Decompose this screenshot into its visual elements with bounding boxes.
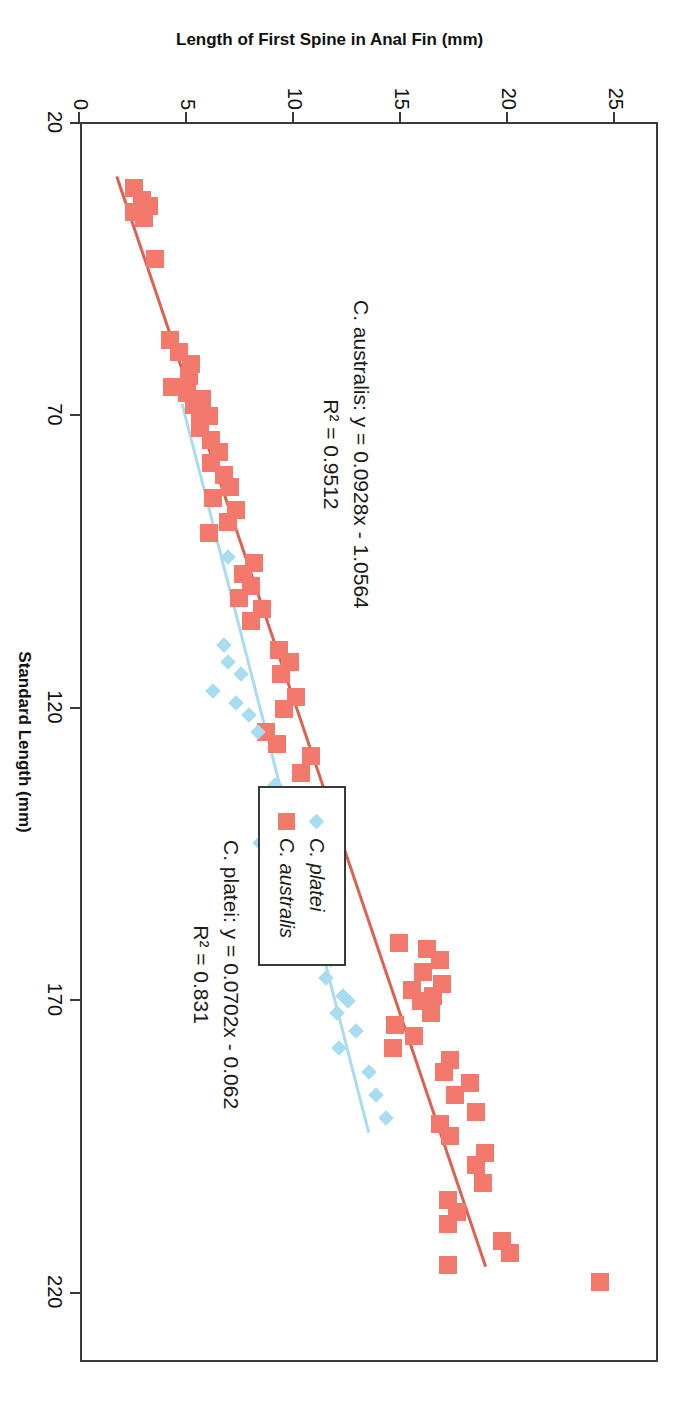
x-axis-tick-label: 120 <box>43 690 66 723</box>
data-point-c-australis <box>384 1039 402 1057</box>
annotation-c-platei-equation: C. platei: y = 0.0702x - 0.062 <box>220 840 243 1109</box>
y-axis-tick-label: 10 <box>283 88 306 110</box>
annotation-c-platei-r2: R² = 0.831 <box>185 840 215 1109</box>
data-point-c-australis <box>302 747 320 765</box>
data-point-c-platei <box>220 549 236 565</box>
data-point-c-australis <box>275 700 293 718</box>
x-axis-tick-label: 220 <box>43 1275 66 1308</box>
annotation-c-platei: C. platei: y = 0.0702x - 0.062 R² = 0.83… <box>185 840 246 1109</box>
annotation-c-australis-r2: R² = 0.9512 <box>315 300 345 609</box>
y-axis-tick-label: 15 <box>390 88 413 110</box>
data-point-c-australis <box>467 1103 485 1121</box>
chart-figure: Callanthias 20701201702200510152025 Stan… <box>0 0 676 1412</box>
data-point-c-australis <box>390 934 408 952</box>
data-point-c-australis <box>135 209 153 227</box>
data-point-c-australis <box>501 1244 519 1262</box>
data-point-c-australis <box>422 1004 440 1022</box>
data-point-c-australis <box>268 735 286 753</box>
rotated-figure-wrapper: Callanthias 20701201702200510152025 Stan… <box>0 0 676 1412</box>
x-axis-tick-mark <box>70 999 80 1001</box>
legend-swatch-wrapper <box>312 804 323 838</box>
data-point-c-platei <box>233 666 249 682</box>
y-axis-tick-mark <box>613 112 615 122</box>
data-point-c-platei <box>329 1005 345 1021</box>
legend-swatch-wrapper <box>279 804 296 838</box>
data-point-c-australis <box>431 951 449 969</box>
y-axis-label: Length of First Spine in Anal Fin (mm) <box>176 30 483 50</box>
data-point-c-platei <box>216 637 232 653</box>
data-point-c-australis <box>414 963 432 981</box>
y-axis-tick-label: 0 <box>69 99 92 110</box>
data-point-c-australis <box>219 513 237 531</box>
data-point-c-australis <box>386 1016 404 1034</box>
data-point-c-australis <box>242 612 260 630</box>
data-point-c-platei <box>205 684 221 700</box>
data-point-c-australis <box>446 1086 464 1104</box>
data-point-c-australis <box>442 1127 460 1145</box>
data-point-c-australis <box>591 1273 609 1291</box>
x-axis-tick-mark <box>70 122 80 124</box>
data-point-c-australis <box>405 1027 423 1045</box>
data-point-c-australis <box>272 665 290 683</box>
data-point-c-platei <box>331 1040 347 1056</box>
x-axis-tick-mark <box>70 707 80 709</box>
y-axis-tick-mark <box>292 112 294 122</box>
y-axis-tick-mark <box>399 112 401 122</box>
chart-legend: C. plateiC. australis <box>258 786 346 966</box>
y-axis-tick-label: 25 <box>604 88 627 110</box>
y-axis-tick-mark <box>506 112 508 122</box>
y-axis-tick-mark <box>78 112 80 122</box>
x-axis-tick-label: 70 <box>43 403 66 425</box>
data-point-c-platei <box>319 970 335 986</box>
legend-square-icon <box>279 813 296 830</box>
data-point-c-australis <box>180 367 198 385</box>
x-axis-tick-label: 20 <box>43 111 66 133</box>
legend-diamond-icon <box>309 813 325 829</box>
data-point-c-australis <box>200 524 218 542</box>
y-axis-tick-label: 5 <box>176 99 199 110</box>
annotation-c-australis-equation: C. australis: y = 0.0928x - 1.0564 <box>350 300 373 609</box>
x-axis-label: Standard Length (mm) <box>14 122 34 1362</box>
x-axis-tick-mark <box>70 1292 80 1294</box>
y-axis-tick-mark <box>185 112 187 122</box>
data-point-c-australis <box>474 1174 492 1192</box>
data-point-c-australis <box>439 1215 457 1233</box>
x-axis-tick-mark <box>70 414 80 416</box>
data-point-c-platei <box>229 695 245 711</box>
data-point-c-australis <box>435 1063 453 1081</box>
data-point-c-platei <box>379 1111 395 1127</box>
legend-label: C. platei <box>306 838 329 911</box>
data-point-c-australis <box>221 478 239 496</box>
data-point-c-australis <box>292 764 310 782</box>
data-point-c-platei <box>241 707 257 723</box>
legend-label: C. australis <box>276 838 299 938</box>
data-point-c-platei <box>368 1087 384 1103</box>
data-point-c-australis <box>467 1156 485 1174</box>
data-point-c-australis <box>146 250 164 268</box>
legend-item-c-platei[interactable]: C. platei <box>302 804 332 938</box>
legend-item-c-australis[interactable]: C. australis <box>272 804 302 938</box>
y-axis-tick-label: 20 <box>497 88 520 110</box>
data-point-c-platei <box>349 1023 365 1039</box>
data-point-c-australis <box>439 1256 457 1274</box>
x-axis-tick-label: 170 <box>43 983 66 1016</box>
data-point-c-australis <box>230 589 248 607</box>
data-point-c-australis <box>204 489 222 507</box>
annotation-c-australis: C. australis: y = 0.0928x - 1.0564 R² = … <box>315 300 376 609</box>
data-point-c-platei <box>220 654 236 670</box>
data-point-c-platei <box>361 1064 377 1080</box>
